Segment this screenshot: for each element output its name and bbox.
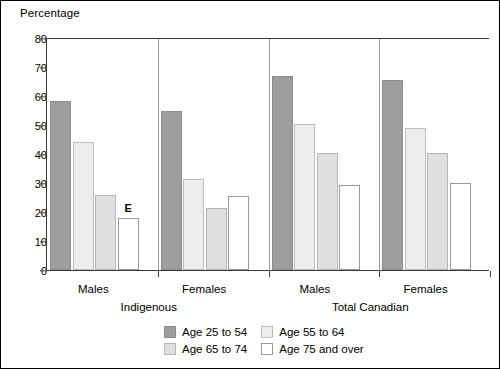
legend-swatch	[261, 343, 273, 355]
bar[interactable]	[272, 76, 293, 270]
legend-label: Age 25 to 54	[182, 326, 247, 338]
bar[interactable]	[294, 124, 315, 270]
legend-item[interactable]: Age 75 and over	[261, 343, 363, 355]
bar-group	[269, 38, 380, 270]
bar-annotation: E	[124, 202, 131, 214]
bar[interactable]	[450, 183, 471, 270]
group-separator	[158, 39, 159, 271]
group-separator	[269, 39, 270, 271]
plot-area: E	[46, 39, 489, 271]
legend-item[interactable]: Age 55 to 64	[261, 326, 363, 338]
x-axis-category-label: Females	[182, 283, 226, 295]
legend-label: Age 55 to 64	[279, 326, 344, 338]
bar[interactable]	[73, 142, 94, 270]
x-axis-category-label: Males	[78, 283, 109, 295]
bar-group: E	[47, 38, 158, 270]
x-axis-tick-mark	[379, 271, 380, 277]
legend-label: Age 75 and over	[279, 343, 363, 355]
x-axis-category-label: Females	[404, 283, 448, 295]
bar[interactable]	[50, 101, 71, 270]
bar-group	[379, 38, 490, 270]
legend-swatch	[261, 326, 273, 338]
bar[interactable]	[95, 195, 116, 270]
chart-frame: Percentage 01020304050607080 E MalesFema…	[0, 0, 500, 369]
bar[interactable]	[118, 218, 139, 270]
x-axis-supergroup-label: Total Canadian	[332, 301, 409, 313]
bar[interactable]	[317, 153, 338, 270]
bar[interactable]	[228, 196, 249, 270]
bar[interactable]	[161, 111, 182, 270]
legend-item[interactable]: Age 25 to 54	[164, 326, 247, 338]
y-axis-title: Percentage	[20, 7, 80, 19]
x-axis-tick-mark	[490, 271, 491, 277]
bar[interactable]	[427, 153, 448, 270]
chart-legend: Age 25 to 54Age 55 to 64Age 65 to 74Age …	[164, 326, 364, 355]
legend-swatch	[164, 326, 176, 338]
x-axis-tick-mark	[269, 271, 270, 277]
legend-item[interactable]: Age 65 to 74	[164, 343, 247, 355]
bar[interactable]	[339, 185, 360, 270]
bar-group	[158, 38, 269, 270]
x-axis-category-label: Males	[300, 283, 331, 295]
bar[interactable]	[206, 208, 227, 270]
x-axis-tick-mark	[158, 271, 159, 277]
bar[interactable]	[405, 128, 426, 270]
bar[interactable]	[183, 179, 204, 270]
bar[interactable]	[382, 80, 403, 270]
group-separator	[379, 39, 380, 271]
legend-swatch	[164, 343, 176, 355]
x-axis-supergroup-label: Indigenous	[121, 301, 177, 313]
legend-label: Age 65 to 74	[182, 343, 247, 355]
